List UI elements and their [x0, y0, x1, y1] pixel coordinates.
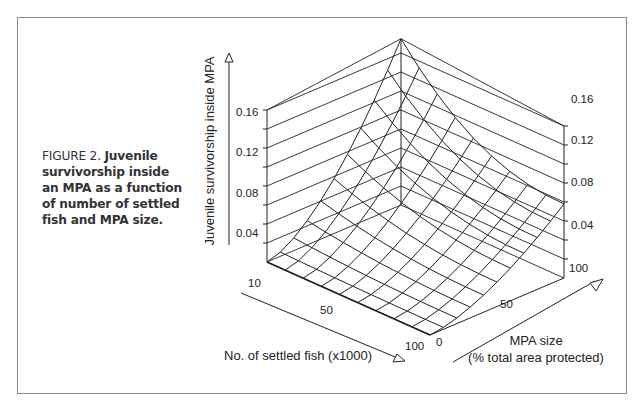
surface-line [312, 232, 325, 248]
surface-line [374, 100, 392, 123]
surface-line [330, 257, 348, 266]
surface-line [280, 238, 293, 252]
surface-line [380, 263, 398, 273]
surface-line [353, 276, 366, 287]
surface-line [299, 248, 312, 261]
surface-line [455, 118, 473, 139]
surface-line [353, 286, 371, 294]
surface-line [478, 156, 491, 176]
surface-line [434, 278, 447, 290]
surface-line [416, 269, 429, 282]
surface-line [439, 299, 452, 310]
surface-line [379, 123, 392, 148]
surface-line [492, 260, 510, 269]
surface-line [447, 179, 465, 194]
surface-line [524, 238, 537, 254]
y-tick: 100 [569, 262, 588, 274]
surface-line [384, 167, 397, 188]
surface-line [412, 319, 425, 327]
x-tick: 100 [405, 340, 424, 352]
z-tick-left: 0.08 [236, 187, 258, 199]
wall-grid-line [267, 129, 401, 186]
surface-line [317, 269, 335, 278]
surface-line [433, 198, 451, 212]
z-tick-right: 0.04 [571, 219, 594, 231]
x-axis-arrow-icon [393, 354, 405, 362]
surface-line [343, 243, 361, 253]
surface-line [474, 250, 492, 259]
surface-line [403, 293, 421, 302]
z-axis-label: Juvenile survivorship inside MPA [202, 56, 217, 245]
surface-line [375, 238, 393, 249]
surface-line [330, 243, 343, 258]
surface-line [421, 290, 434, 301]
surface-line [325, 214, 338, 232]
surface-line [443, 240, 456, 255]
x-axis-label: No. of settled fish (x1000) [224, 348, 372, 363]
surface-line [415, 163, 428, 184]
surface-line [466, 274, 479, 287]
y-tick: 0 [436, 336, 442, 348]
surface-line [375, 221, 388, 238]
surface-line [407, 302, 420, 312]
surface-line [434, 290, 452, 299]
surface-line [384, 284, 402, 293]
surface-line [394, 311, 407, 319]
surface-line [506, 245, 524, 254]
surface-line [389, 303, 407, 311]
y-axis-arrow-icon [590, 279, 603, 291]
surface-line [339, 214, 357, 226]
surface-line [317, 257, 330, 269]
surface-line [348, 266, 366, 275]
surface-line [492, 156, 510, 171]
surface-line [465, 176, 478, 195]
surface-line [393, 249, 411, 259]
surface-line [451, 212, 469, 224]
wall-grid-line [267, 148, 401, 205]
surface-line [303, 269, 316, 278]
wall-grid-line [401, 91, 564, 164]
surface-line [429, 269, 447, 278]
surface-line [421, 302, 439, 310]
wall-grid-line [267, 53, 401, 110]
surface-line [488, 235, 506, 245]
surface-line [334, 154, 347, 178]
surface-line [411, 259, 429, 269]
wall-grid-line [401, 72, 564, 145]
surface-line [460, 138, 473, 159]
y-axis-label: MPA size [509, 333, 562, 348]
surface-line [371, 284, 384, 294]
surface-line [447, 265, 460, 278]
surface-line [546, 195, 564, 204]
surface-line [376, 303, 389, 311]
surface-line [510, 171, 528, 184]
surface-line [388, 39, 401, 70]
surface-line [461, 265, 479, 274]
surface-line [402, 183, 415, 203]
surface-line [406, 216, 419, 233]
surface-line [483, 208, 501, 220]
surface-line [514, 184, 527, 202]
surface-line [402, 203, 420, 217]
surface-line [519, 229, 537, 238]
surface-line [484, 282, 497, 295]
surface-line [470, 224, 488, 235]
surface-line [407, 311, 425, 319]
surface-line [384, 188, 402, 203]
surface-line [285, 261, 298, 270]
surface-line [479, 274, 497, 282]
surface-line [384, 272, 397, 284]
surface-line [456, 240, 474, 250]
surface-line [370, 208, 388, 221]
surface-line [374, 70, 387, 100]
surface-line [443, 255, 461, 265]
surface-line [425, 229, 438, 245]
surface-line [497, 268, 510, 282]
surface-line [398, 272, 416, 281]
surface-line [362, 238, 375, 253]
wall-grid-line [401, 186, 564, 259]
surface-line [420, 216, 438, 228]
surface-line [280, 252, 298, 261]
surface-line [294, 221, 307, 238]
surface-line [429, 163, 447, 180]
